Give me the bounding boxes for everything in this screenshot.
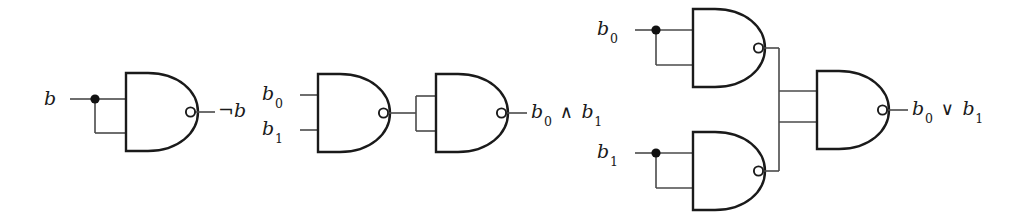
- not-output-bubble: [186, 107, 195, 116]
- or-output-label: b0 ∨ b1: [912, 99, 983, 122]
- not-input-junction-dot: [90, 94, 99, 103]
- and-stage1-output-bubble: [379, 108, 388, 117]
- not-output-label: ¬b: [218, 101, 246, 120]
- nand-circuits-figure: b ¬b b0 b1 b0 ∧ b1 b0 b1 b0 ∨ b1: [0, 0, 1018, 213]
- or-bottom-input-junction-dot: [651, 148, 660, 157]
- circuit-diagram-svg: [0, 0, 1018, 213]
- or-input0-label: b0: [597, 19, 618, 42]
- and-output-label: b0 ∧ b1: [531, 102, 602, 125]
- or-bottom-output-bubble: [754, 166, 763, 175]
- or-input1-label: b1: [597, 142, 618, 165]
- or-output-bubble: [878, 105, 887, 114]
- and-output-bubble: [497, 108, 506, 117]
- and-input1-label: b1: [262, 119, 283, 142]
- or-top-input-junction-dot: [651, 25, 660, 34]
- and-input0-label: b0: [262, 84, 283, 107]
- not-input-label: b: [44, 89, 56, 108]
- or-top-output-bubble: [754, 43, 763, 52]
